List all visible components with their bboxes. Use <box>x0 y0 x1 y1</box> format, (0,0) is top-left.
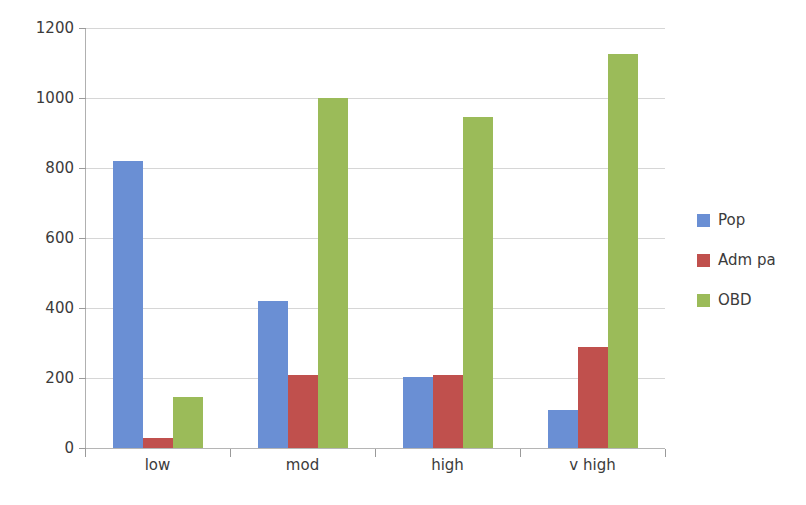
y-tick-mark <box>79 28 86 29</box>
y-tick-label: 1000 <box>14 91 74 106</box>
bar-chart: 020040060080010001200 lowmodhighv high P… <box>0 0 806 505</box>
y-tick-mark <box>79 238 86 239</box>
bar-pop-high <box>403 377 433 448</box>
bar-obd-low <box>173 397 203 448</box>
gridline <box>85 28 665 29</box>
bar-pop-mod <box>258 301 288 448</box>
legend-label: Adm pa <box>718 251 776 269</box>
y-tick-label: 200 <box>14 371 74 386</box>
bar-pop-v-high <box>548 410 578 448</box>
gridline <box>85 238 665 239</box>
legend-label: OBD <box>718 291 752 309</box>
chart-legend: PopAdm paOBD <box>697 200 802 320</box>
legend-item-pop[interactable]: Pop <box>697 200 802 240</box>
x-tick-mark <box>230 449 231 457</box>
x-category-label-low: low <box>85 458 230 473</box>
gridline <box>85 98 665 99</box>
bar-obd-high <box>463 117 493 448</box>
gridline <box>85 308 665 309</box>
y-tick-label: 600 <box>14 231 74 246</box>
bar-adm-pa-low <box>143 438 173 448</box>
bar-pop-low <box>113 161 143 448</box>
legend-item-adm-pa[interactable]: Adm pa <box>697 240 802 280</box>
legend-swatch-icon <box>697 294 710 307</box>
legend-item-obd[interactable]: OBD <box>697 280 802 320</box>
x-tick-mark <box>85 449 86 457</box>
y-axis-tick-labels: 020040060080010001200 <box>8 0 74 505</box>
legend-swatch-icon <box>697 254 710 267</box>
gridline <box>85 168 665 169</box>
x-category-label-high: high <box>375 458 520 473</box>
y-tick-label: 400 <box>14 301 74 316</box>
y-tick-label: 0 <box>14 441 74 456</box>
bar-obd-v-high <box>608 54 638 448</box>
y-tick-mark <box>79 168 86 169</box>
x-category-label-mod: mod <box>230 458 375 473</box>
x-tick-mark <box>665 449 666 457</box>
bar-adm-pa-mod <box>288 375 318 448</box>
legend-swatch-icon <box>697 214 710 227</box>
y-tick-mark <box>79 98 86 99</box>
bar-adm-pa-v-high <box>578 347 608 449</box>
y-tick-label: 800 <box>14 161 74 176</box>
x-tick-mark <box>375 449 376 457</box>
bar-adm-pa-high <box>433 375 463 448</box>
x-category-label-v-high: v high <box>520 458 665 473</box>
bar-obd-mod <box>318 98 348 448</box>
plot-area <box>85 28 665 448</box>
y-tick-mark <box>79 308 86 309</box>
x-tick-mark <box>520 449 521 457</box>
y-tick-label: 1200 <box>14 21 74 36</box>
legend-label: Pop <box>718 211 745 229</box>
y-tick-mark <box>79 378 86 379</box>
